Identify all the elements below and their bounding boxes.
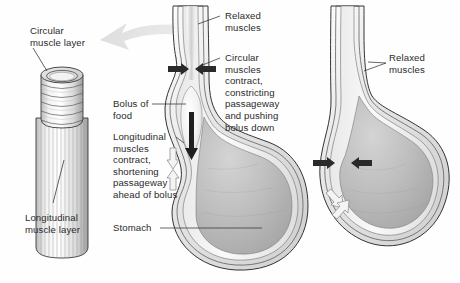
label-longitudinal-muscles-contract: Longitudinal muscles contract, shortenin… (113, 131, 177, 201)
circular-muscle-rings (41, 67, 83, 128)
label-circular-muscle-layer: Circular muscle layer (30, 25, 85, 48)
leader-line-circular-muscle (33, 48, 47, 71)
right-diagram (313, 6, 449, 246)
label-relaxed-muscles-right: Relaxed muscles (389, 52, 425, 75)
leader-relaxed-muscles-right (364, 62, 386, 71)
label-bolus-of-food: Bolus of food (113, 98, 148, 121)
label-stomach: Stomach (113, 222, 152, 234)
label-longitudinal-muscle-layer: Longitudinal muscle layer (25, 212, 80, 235)
figure-root: Circular muscle layer Longitudinal muscl… (0, 0, 460, 283)
label-circular-muscles-contract: Circular muscles contract, constricting … (225, 52, 279, 133)
label-relaxed-muscles-middle: Relaxed muscles (225, 10, 261, 33)
